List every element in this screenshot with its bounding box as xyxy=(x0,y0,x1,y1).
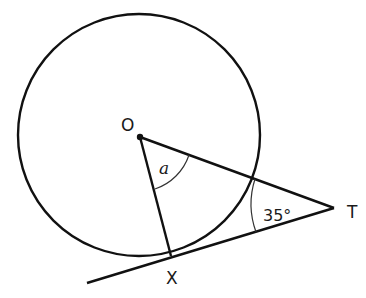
tangent-line-xt xyxy=(87,208,334,283)
diagram-canvas: O a 35° T X xyxy=(0,0,366,298)
label-t: T xyxy=(346,202,358,222)
radius-ox xyxy=(140,137,171,256)
label-angle-a: a xyxy=(159,158,169,178)
label-angle-35: 35° xyxy=(263,206,291,225)
centre-point xyxy=(137,134,143,140)
label-o: O xyxy=(121,115,134,135)
angle-arc-t xyxy=(251,179,256,232)
label-x: X xyxy=(166,268,178,288)
geometry-figure: O a 35° T X xyxy=(0,0,366,298)
